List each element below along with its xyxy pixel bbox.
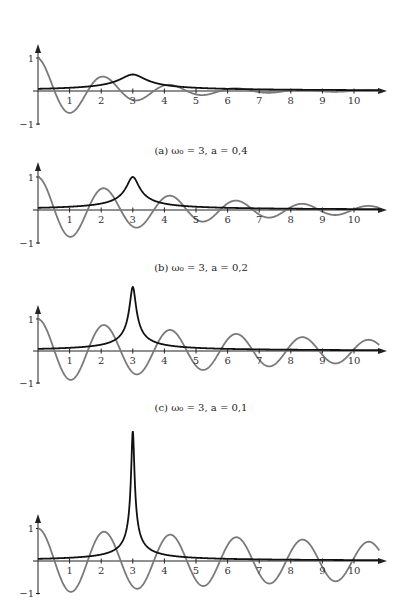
y-tick-label: −1 <box>19 119 34 130</box>
x-axis-arrow-icon <box>378 558 387 564</box>
y-tick-label: −1 <box>19 378 34 389</box>
x-tick-label: 2 <box>98 565 104 576</box>
x-tick-label: 2 <box>98 214 104 225</box>
x-tick-label: 10 <box>348 214 361 225</box>
x-tick-label: 1 <box>66 565 72 576</box>
x-tick-label: 3 <box>130 95 136 106</box>
x-tick-label: 1 <box>66 95 72 106</box>
y-tick-label: 1 <box>28 314 34 325</box>
y-axis-arrow-icon <box>35 305 41 314</box>
x-tick-label: 9 <box>319 214 325 225</box>
panel-b: 1−112345678910(b) ω₀ = 3, a = 0,2 <box>19 162 387 273</box>
x-tick-label: 6 <box>224 214 230 225</box>
spectrum-curve <box>38 287 379 350</box>
x-tick-label: 4 <box>161 214 167 225</box>
x-tick-label: 5 <box>193 565 199 576</box>
figure: 1−112345678910(a) ω₀ = 3, a = 0,4 1−1123… <box>0 0 403 600</box>
panel-caption: (b) ω₀ = 3, a = 0,2 <box>154 262 248 273</box>
x-tick-label: 3 <box>130 565 136 576</box>
x-tick-label: 6 <box>224 355 230 366</box>
y-tick-label: 1 <box>28 523 34 534</box>
x-tick-label: 7 <box>256 214 262 225</box>
x-tick-label: 2 <box>98 355 104 366</box>
y-tick-label: −1 <box>19 238 34 249</box>
x-tick-label: 10 <box>348 355 361 366</box>
x-tick-label: 10 <box>348 565 361 576</box>
x-tick-label: 10 <box>348 95 361 106</box>
x-tick-label: 7 <box>256 355 262 366</box>
x-tick-label: 3 <box>130 214 136 225</box>
y-tick-label: 1 <box>28 53 34 64</box>
x-tick-label: 1 <box>66 355 72 366</box>
x-tick-label: 5 <box>193 355 199 366</box>
x-tick-label: 9 <box>319 565 325 576</box>
x-tick-label: 4 <box>161 565 167 576</box>
x-tick-label: 9 <box>319 95 325 106</box>
y-axis-arrow-icon <box>35 162 41 171</box>
y-tick-label: 1 <box>28 172 34 183</box>
panel-caption: (c) ω₀ = 3, a = 0,1 <box>155 402 248 413</box>
signal-curve <box>38 58 379 113</box>
x-axis-arrow-icon <box>378 207 387 213</box>
y-tick-label: −1 <box>19 588 34 599</box>
x-tick-label: 1 <box>66 214 72 225</box>
x-tick-label: 7 <box>256 565 262 576</box>
x-tick-label: 6 <box>224 95 230 106</box>
x-tick-label: 8 <box>288 565 294 576</box>
x-tick-label: 3 <box>130 355 136 366</box>
panel-a: 1−112345678910(a) ω₀ = 3, a = 0,4 <box>19 44 387 156</box>
y-axis-arrow-icon <box>35 514 41 523</box>
x-axis-arrow-icon <box>378 88 387 94</box>
x-tick-label: 5 <box>193 214 199 225</box>
x-tick-label: 6 <box>224 565 230 576</box>
x-tick-label: 2 <box>98 95 104 106</box>
x-tick-label: 9 <box>319 355 325 366</box>
panel-c: 1−112345678910(c) ω₀ = 3, a = 0,1 <box>19 287 387 413</box>
x-tick-label: 8 <box>288 214 294 225</box>
panel-caption: (a) ω₀ = 3, a = 0,4 <box>154 145 247 156</box>
x-tick-label: 7 <box>256 95 262 106</box>
x-axis-arrow-icon <box>378 348 387 354</box>
x-tick-label: 5 <box>193 95 199 106</box>
x-tick-label: 8 <box>288 355 294 366</box>
x-tick-label: 4 <box>161 95 167 106</box>
panel-d: 1−112345678910 <box>19 431 387 599</box>
spectrum-curve <box>38 431 379 560</box>
x-tick-label: 4 <box>161 355 167 366</box>
y-axis-arrow-icon <box>35 44 41 53</box>
x-tick-label: 8 <box>288 95 294 106</box>
